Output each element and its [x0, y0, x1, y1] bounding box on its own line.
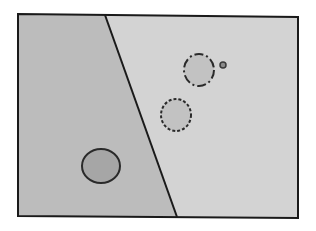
solid-circle [82, 149, 120, 183]
dash-dot-circle [184, 54, 214, 86]
diagram-canvas [0, 0, 316, 231]
small-dot [220, 62, 226, 68]
dashed-circle [161, 99, 191, 131]
